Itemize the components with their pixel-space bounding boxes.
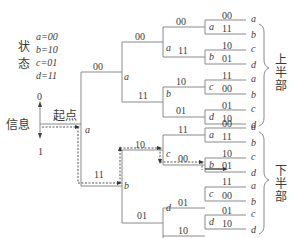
start-label: 起点 bbox=[53, 110, 77, 123]
level2-a-lower-output: 11 bbox=[138, 91, 148, 101]
l3-output: 10 bbox=[178, 226, 188, 236]
level2-state-c: c bbox=[166, 149, 170, 159]
l4-output: 11 bbox=[222, 71, 232, 81]
level1-upper-output: 00 bbox=[93, 62, 103, 72]
l4-node: b bbox=[209, 160, 214, 170]
l4-target: c bbox=[251, 152, 255, 162]
l4-output: 01 bbox=[222, 54, 232, 64]
level2-state-d: d bbox=[166, 203, 171, 213]
l4-target: b bbox=[251, 30, 256, 40]
l4-output: 00 bbox=[222, 11, 232, 21]
legend-state-a: a=00 bbox=[36, 32, 58, 42]
l4-target: b bbox=[251, 90, 256, 100]
l4-output: 01 bbox=[222, 161, 232, 171]
l4-target: a bbox=[251, 122, 256, 132]
l4-target: a bbox=[251, 14, 256, 24]
level2-b-lower-output: 01 bbox=[137, 211, 147, 221]
l4-target: d bbox=[251, 168, 256, 178]
input-one-label: 1 bbox=[38, 147, 43, 157]
l4-output: 11 bbox=[222, 177, 232, 187]
l3-output: 00 bbox=[176, 17, 186, 27]
l4-target: b bbox=[251, 138, 256, 148]
l4-target: a bbox=[251, 74, 256, 84]
l4-output: 01 bbox=[222, 206, 232, 216]
l4-node: d bbox=[209, 112, 214, 122]
level1-lower-state: b bbox=[124, 181, 129, 191]
l4-node: d bbox=[209, 217, 214, 227]
lower-half-label: 部 bbox=[275, 191, 287, 204]
l4-target: c bbox=[251, 44, 255, 54]
level1-upper-state: a bbox=[124, 72, 129, 82]
legend-state-d: d=11 bbox=[36, 71, 57, 81]
level2-a-upper-output: 00 bbox=[135, 32, 145, 42]
l4-output: 00 bbox=[222, 191, 232, 201]
l4-target: b bbox=[251, 197, 256, 207]
root-state: a bbox=[85, 125, 90, 135]
level1-lower-output: 11 bbox=[94, 170, 104, 180]
l3-output: 11 bbox=[178, 46, 188, 56]
l3-output: 01 bbox=[178, 198, 188, 208]
l4-node: a bbox=[209, 130, 214, 140]
l4-output: 10 bbox=[222, 149, 232, 159]
legend-state-c: c=01 bbox=[36, 58, 57, 68]
level2-state-a: a bbox=[166, 43, 171, 53]
l4-node: c bbox=[209, 82, 213, 92]
l4-node: b bbox=[209, 52, 214, 62]
level2-b-upper-output: 10 bbox=[135, 140, 145, 150]
l3-output: 00 bbox=[178, 154, 188, 164]
l3-output: 11 bbox=[178, 125, 188, 135]
l4-output: 10 bbox=[222, 41, 232, 51]
l4-output: 11 bbox=[222, 24, 232, 34]
l4-output: 00 bbox=[222, 84, 232, 94]
l4-output: 01 bbox=[222, 101, 232, 111]
l4-target: c bbox=[251, 209, 255, 219]
l4-target: c bbox=[251, 104, 255, 114]
l4-target: d bbox=[251, 225, 256, 235]
l4-node: c bbox=[209, 189, 213, 199]
l4-target: d bbox=[251, 60, 256, 70]
level2-state-b: b bbox=[166, 89, 171, 99]
l4-target: a bbox=[251, 181, 256, 191]
l3-output: 10 bbox=[176, 77, 186, 87]
legend-state-b: b=10 bbox=[36, 45, 58, 55]
l4-output: 10 bbox=[222, 219, 232, 229]
legend-title-char: 态 bbox=[18, 58, 30, 71]
l4-node: a bbox=[209, 22, 214, 32]
input-zero-label: 0 bbox=[37, 92, 42, 102]
legend-title-char: 状 bbox=[18, 41, 30, 54]
l4-output: 11 bbox=[222, 132, 232, 142]
upper-half-label: 部 bbox=[275, 80, 287, 93]
l3-output: 01 bbox=[176, 106, 186, 116]
info-label: 信息 bbox=[6, 119, 30, 132]
l4-output: 00 bbox=[222, 119, 232, 129]
